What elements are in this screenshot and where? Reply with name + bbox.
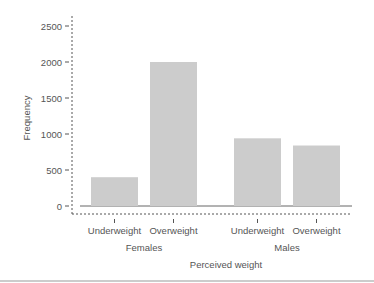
x-tick-label: Overweight: [149, 225, 197, 236]
bar-females-overweight: [150, 62, 197, 206]
bar-females-underweight: [91, 177, 138, 206]
bar-males-underweight: [234, 138, 281, 206]
bar-chart: 05001000150020002500 UnderweightOverweig…: [0, 0, 374, 283]
y-tick-label: 1000: [41, 129, 62, 140]
x-tick-label: Underweight: [231, 225, 285, 236]
x-tick-label: Underweight: [88, 225, 142, 236]
y-axis-title: Frequency: [21, 95, 32, 140]
group-label: Males: [274, 242, 300, 253]
y-tick-label: 500: [46, 165, 62, 176]
x-tick-label: Overweight: [292, 225, 340, 236]
x-axis-title: Perceived weight: [190, 259, 263, 270]
bars: [80, 62, 352, 206]
y-tick-label: 1500: [41, 93, 62, 104]
y-tick-label: 2000: [41, 57, 62, 68]
y-tick-label: 0: [57, 201, 62, 212]
bar-males-overweight: [293, 146, 340, 206]
y-tick-label: 2500: [41, 21, 62, 32]
x-axis: UnderweightOverweightFemalesUnderweightO…: [88, 219, 341, 253]
group-label: Females: [126, 242, 163, 253]
